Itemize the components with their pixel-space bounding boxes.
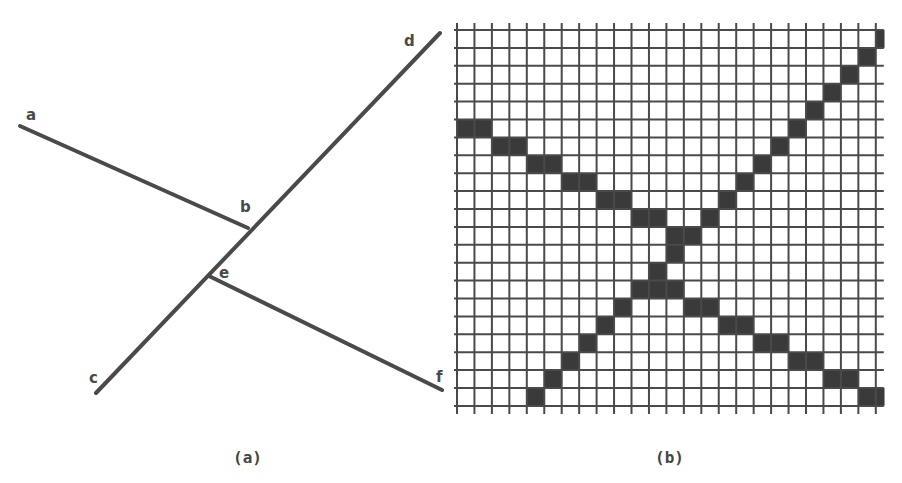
filled-cell [579, 334, 596, 352]
filled-cell [876, 388, 885, 406]
filled-cell [789, 120, 806, 138]
filled-cell [457, 120, 474, 138]
filled-cell [771, 334, 788, 352]
segment-a-b [20, 126, 248, 228]
filled-cells [457, 30, 885, 406]
point-label-f: f [436, 368, 443, 386]
filled-cell [736, 316, 753, 334]
filled-cell [579, 173, 596, 191]
filled-cell [666, 281, 683, 299]
point-label-c: c [89, 369, 98, 387]
filled-cell [632, 281, 649, 299]
filled-cell [597, 316, 614, 334]
filled-cell [684, 299, 701, 317]
filled-cell [841, 370, 858, 388]
filled-cell [562, 173, 579, 191]
filled-cell [684, 227, 701, 245]
filled-cell [527, 388, 544, 406]
segment-c-d [96, 33, 440, 393]
caption-b: (b) [655, 448, 684, 467]
filled-cell [789, 352, 806, 370]
filled-cell [876, 30, 885, 48]
filled-cell [544, 155, 561, 173]
filled-cell [666, 227, 683, 245]
filled-cell [736, 173, 753, 191]
filled-cell [544, 370, 561, 388]
panel-b: (b) [454, 23, 885, 467]
filled-cell [597, 191, 614, 209]
filled-cell [614, 191, 631, 209]
filled-cell [474, 120, 491, 138]
filled-cell [719, 316, 736, 334]
filled-cell [649, 263, 666, 281]
filled-cell [527, 155, 544, 173]
filled-cell [701, 209, 718, 227]
filled-cell [806, 352, 823, 370]
filled-cell [632, 209, 649, 227]
filled-cell [701, 299, 718, 317]
filled-cell [754, 155, 771, 173]
filled-cell [754, 334, 771, 352]
filled-cell [823, 84, 840, 102]
filled-cell [649, 281, 666, 299]
segment-e-f [209, 276, 442, 390]
point-label-b: b [240, 198, 251, 216]
filled-cell [841, 66, 858, 84]
filled-cell [666, 245, 683, 263]
filled-cell [509, 137, 526, 155]
figure: a b c d e f (a) (b) [0, 0, 902, 483]
filled-cell [614, 299, 631, 317]
filled-cell [649, 209, 666, 227]
filled-cell [771, 137, 788, 155]
filled-cell [858, 48, 875, 66]
filled-cell [719, 191, 736, 209]
filled-cell [562, 352, 579, 370]
filled-cell [823, 370, 840, 388]
point-label-a: a [26, 106, 36, 124]
point-label-d: d [404, 32, 415, 50]
filled-cell [492, 137, 509, 155]
filled-cell [806, 102, 823, 120]
filled-cell [858, 388, 875, 406]
point-label-e: e [219, 264, 229, 282]
caption-a: (a) [233, 448, 262, 467]
panel-a: a b c d e f (a) [20, 32, 443, 467]
